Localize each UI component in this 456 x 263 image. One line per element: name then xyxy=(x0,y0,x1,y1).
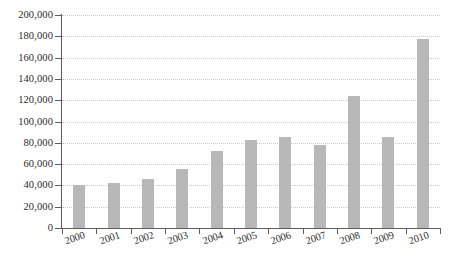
bar-2004 xyxy=(211,151,223,228)
y-axis-tick-label: 60,000 xyxy=(24,159,53,170)
x-axis-tick xyxy=(62,228,63,234)
y-axis-tick xyxy=(55,15,61,16)
y-axis-tick xyxy=(55,164,61,165)
x-axis-label-2009: 2009 xyxy=(372,229,395,246)
y-axis-tick xyxy=(55,143,61,144)
bar-2009 xyxy=(382,137,394,228)
y-axis-tick-label: 80,000 xyxy=(24,138,53,149)
bar-2000 xyxy=(73,185,85,228)
x-axis-tick xyxy=(234,228,235,234)
bar-2006 xyxy=(279,137,291,228)
plot-area xyxy=(62,15,440,228)
x-axis-label-2004: 2004 xyxy=(201,229,224,246)
gridline-100000 xyxy=(62,122,440,123)
y-axis-tick-label: 40,000 xyxy=(24,180,53,191)
y-axis-tick xyxy=(55,228,61,229)
x-axis-label-2003: 2003 xyxy=(166,229,189,246)
y-axis-tick xyxy=(55,122,61,123)
x-axis-tick xyxy=(165,228,166,234)
x-axis-label-2005: 2005 xyxy=(235,229,258,246)
y-axis-tick xyxy=(55,100,61,101)
x-axis-tick xyxy=(337,228,338,234)
y-axis-tick-label: 160,000 xyxy=(18,53,53,64)
y-axis-tick xyxy=(55,36,61,37)
x-axis-tick xyxy=(406,228,407,234)
y-axis-tick-label: 0 xyxy=(48,223,53,234)
bar-2005 xyxy=(245,140,257,228)
x-axis-label-2006: 2006 xyxy=(269,229,292,246)
x-axis-tick xyxy=(371,228,372,234)
x-axis-label-2002: 2002 xyxy=(132,229,155,246)
bar-2001 xyxy=(108,183,120,228)
x-axis-tick xyxy=(199,228,200,234)
y-axis-line xyxy=(61,14,62,229)
x-axis-tick xyxy=(131,228,132,234)
x-axis-label-2007: 2007 xyxy=(304,229,327,246)
bar-2010 xyxy=(417,39,429,228)
y-axis-tick-label: 20,000 xyxy=(24,202,53,213)
y-axis-tick xyxy=(55,185,61,186)
y-axis-tick xyxy=(55,207,61,208)
bar-2007 xyxy=(314,145,326,228)
x-axis-label-2001: 2001 xyxy=(98,229,121,246)
bar-2008 xyxy=(348,96,360,228)
gridline-140000 xyxy=(62,79,440,80)
gridline-180000 xyxy=(62,36,440,37)
bar-2002 xyxy=(142,179,154,228)
y-axis-tick xyxy=(55,58,61,59)
y-axis-tick-label: 180,000 xyxy=(18,31,53,42)
x-axis-tick xyxy=(268,228,269,234)
y-axis-tick-label: 120,000 xyxy=(18,95,53,106)
bar-2003 xyxy=(176,169,188,228)
x-axis-label-2010: 2010 xyxy=(407,229,430,246)
x-axis-label-2000: 2000 xyxy=(63,229,86,246)
x-axis-tick xyxy=(440,228,441,234)
y-axis-tick xyxy=(55,79,61,80)
x-axis-tick xyxy=(96,228,97,234)
y-axis-tick-label: 200,000 xyxy=(18,10,53,21)
gridline-160000 xyxy=(62,58,440,59)
x-axis-tick xyxy=(303,228,304,234)
bar-chart: 020,00040,00060,00080,000100,000120,0001… xyxy=(0,0,456,263)
gridline-120000 xyxy=(62,100,440,101)
gridline-200000 xyxy=(62,15,440,16)
y-axis-tick-label: 140,000 xyxy=(18,74,53,85)
x-axis-label-2008: 2008 xyxy=(338,229,361,246)
y-axis-tick-label: 100,000 xyxy=(18,117,53,128)
